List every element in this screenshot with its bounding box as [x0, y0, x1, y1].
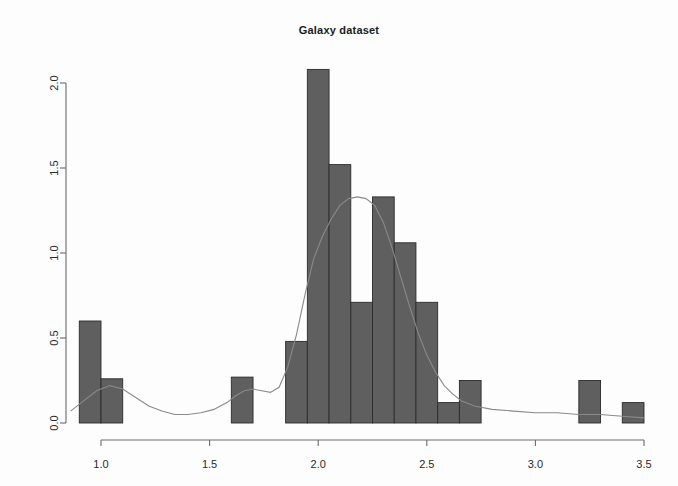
histogram-bar: [101, 379, 123, 423]
histogram-bar: [579, 381, 601, 424]
y-axis: 0.00.51.01.52.0: [48, 75, 66, 430]
y-axis-tick-label: 1.5: [48, 160, 60, 175]
y-axis-tick-label: 0.0: [48, 415, 60, 430]
x-axis-tick-label: 3.5: [636, 458, 651, 470]
histogram-bar: [79, 321, 101, 423]
histogram-bar: [231, 377, 253, 423]
x-axis-tick-label: 1.0: [93, 458, 108, 470]
histogram-bar: [286, 341, 308, 423]
histogram-bar: [438, 403, 460, 423]
histogram-bar: [373, 197, 395, 423]
x-axis-tick-label: 1.5: [202, 458, 217, 470]
x-axis-tick-label: 2.5: [419, 458, 434, 470]
histogram-bar: [394, 243, 416, 423]
histogram-bars: [79, 69, 644, 423]
chart-figure: Galaxy dataset 0.00.51.01.52.01.01.52.02…: [0, 0, 678, 486]
histogram-density-plot: 0.00.51.01.52.01.01.52.02.53.03.5: [0, 0, 678, 486]
x-axis-tick-label: 3.0: [528, 458, 543, 470]
histogram-bar: [622, 403, 644, 423]
y-axis-tick-label: 1.0: [48, 245, 60, 260]
histogram-bar: [351, 302, 373, 423]
y-axis-tick-label: 0.5: [48, 330, 60, 345]
histogram-bar: [329, 165, 351, 423]
histogram-bar: [416, 302, 438, 423]
x-axis: 1.01.52.02.53.03.5: [93, 440, 651, 470]
y-axis-tick-label: 2.0: [48, 75, 60, 90]
x-axis-tick-label: 2.0: [311, 458, 326, 470]
